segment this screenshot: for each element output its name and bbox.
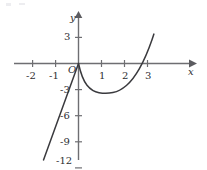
y-tick-label--12: -12 [56,156,72,166]
x-tick-label-3: 3 [145,71,151,81]
y-tick-label-3: 3 [64,32,70,42]
graph-figure: -2 -1 1 2 3 3 -3 -6 -9 -12 O x y [0,0,207,170]
x-tick-label-1: 1 [99,71,105,81]
y-tick-label--3: -3 [60,85,70,95]
x-tick-label--1: -1 [49,71,59,81]
x-tick-label-2: 2 [122,71,128,81]
y-tick-label--6: -6 [60,111,70,121]
x-tick-label--2: -2 [26,71,36,81]
x-axis-label: x [188,67,194,77]
y-axis-label: y [70,13,76,23]
origin-label: O [68,65,76,75]
y-tick-label--9: -9 [60,137,70,147]
plot-area [0,0,207,170]
